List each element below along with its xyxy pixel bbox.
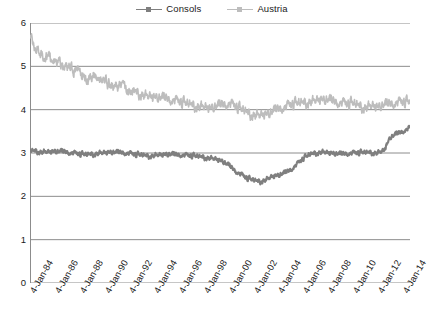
x-tick-label: 4-Jan-08 [326,258,353,295]
x-tick-label: 4-Jan-12 [376,258,403,295]
x-tick-label: 4-Jan-84 [28,258,55,295]
x-tick-label: 4-Jan-06 [301,258,328,295]
x-tick-label: 4-Jan-98 [202,258,229,295]
x-tick-label: 4-Jan-02 [252,258,279,295]
x-tick-label: 4-Jan-94 [152,258,179,295]
x-tick-label: 4-Jan-04 [276,258,303,295]
x-tick-label: 4-Jan-96 [177,258,204,295]
x-tick-label: 4-Jan-00 [227,258,254,295]
x-tick-label: 4-Jan-90 [103,258,130,295]
x-tick-label: 4-Jan-10 [351,258,378,295]
x-tick-label: 4-Jan-86 [53,258,80,295]
x-tick-label: 4-Jan-88 [78,258,105,295]
x-tick-label: 4-Jan-14 [401,258,428,295]
x-tick-label: 4-Jan-92 [127,258,154,295]
